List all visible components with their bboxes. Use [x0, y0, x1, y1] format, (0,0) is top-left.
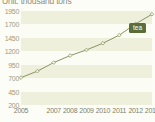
data-point-marker[interactable] [68, 54, 72, 58]
x-axis-tick-label: 2007 [47, 107, 61, 115]
y-axis-tick-label: 450 [8, 88, 19, 95]
y-axis-tick-label: 1200 [5, 48, 19, 55]
x-axis-tick-label: 2013 [145, 107, 155, 115]
x-axis-tick-label: 2005 [14, 107, 28, 115]
data-point-marker[interactable] [52, 61, 56, 65]
y-axis-tick-label: 1700 [5, 21, 19, 28]
data-point-marker[interactable] [36, 69, 40, 73]
x-axis-tick-label: 2011 [112, 107, 126, 115]
data-point-marker[interactable] [85, 48, 89, 52]
chart-screenshot: Unit: thousand tons 19501700145012009507… [0, 0, 155, 122]
y-axis-tick-label: 950 [8, 61, 19, 68]
data-point-marker[interactable] [101, 41, 105, 45]
x-axis-tick-label: 2008 [63, 107, 77, 115]
chart-title: Unit: thousand tons [2, 0, 71, 6]
y-axis: 1950170014501200950700450200 [0, 11, 20, 105]
x-axis-tick-label: 2009 [79, 107, 93, 115]
y-axis-tick-label: 1950 [5, 8, 19, 15]
x-axis-tick-label: 2012 [128, 107, 142, 115]
y-axis-tick-label: 700 [8, 75, 19, 82]
x-axis: 20052007200820092010201120122013 [21, 107, 152, 119]
y-axis-tick-label: 1450 [5, 34, 19, 41]
legend-badge-tea[interactable]: tea [129, 23, 146, 33]
x-axis-tick-label: 2010 [96, 107, 110, 115]
